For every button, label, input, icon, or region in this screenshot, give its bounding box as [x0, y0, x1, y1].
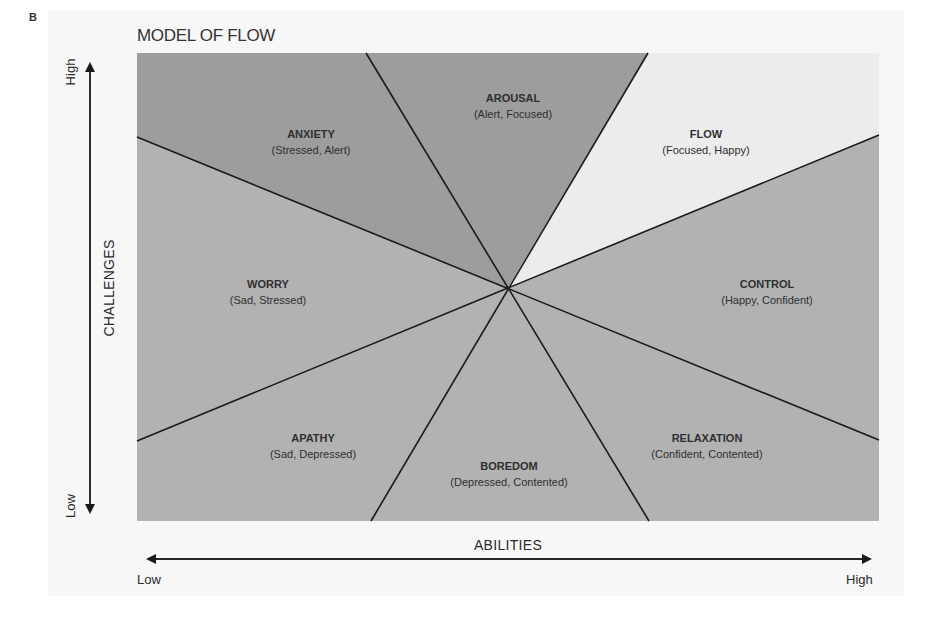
region-feelings: (Happy, Confident)	[721, 292, 813, 308]
region-name: AROUSAL	[474, 90, 552, 106]
region-apathy: APATHY (Sad, Depressed)	[270, 430, 356, 462]
y-axis-high-label: High	[63, 59, 78, 86]
y-axis-title: CHALLENGES	[101, 239, 117, 336]
x-axis-title: ABILITIES	[474, 537, 542, 553]
region-control: CONTROL (Happy, Confident)	[721, 276, 813, 308]
region-feelings: (Alert, Focused)	[474, 106, 552, 122]
region-worry: WORRY (Sad, Stressed)	[230, 276, 306, 308]
region-relaxation: RELAXATION (Confident, Contented)	[651, 430, 762, 462]
region-feelings: (Stressed, Alert)	[272, 142, 351, 158]
x-axis-low-label: Low	[137, 572, 161, 587]
x-axis-high-label: High	[846, 572, 873, 587]
region-feelings: (Sad, Depressed)	[270, 446, 356, 462]
flow-model-diagram	[0, 0, 942, 627]
region-name: FLOW	[662, 126, 749, 142]
region-anxiety: ANXIETY (Stressed, Alert)	[272, 126, 351, 158]
region-name: BOREDOM	[450, 458, 567, 474]
region-arousal: AROUSAL (Alert, Focused)	[474, 90, 552, 122]
region-feelings: (Depressed, Contented)	[450, 474, 567, 490]
region-flow: FLOW (Focused, Happy)	[662, 126, 749, 158]
region-name: WORRY	[230, 276, 306, 292]
region-feelings: (Confident, Contented)	[651, 446, 762, 462]
region-feelings: (Focused, Happy)	[662, 142, 749, 158]
region-boredom: BOREDOM (Depressed, Contented)	[450, 458, 567, 490]
region-name: ANXIETY	[272, 126, 351, 142]
region-name: APATHY	[270, 430, 356, 446]
region-name: CONTROL	[721, 276, 813, 292]
y-axis-low-label: Low	[63, 494, 78, 518]
region-name: RELAXATION	[651, 430, 762, 446]
region-feelings: (Sad, Stressed)	[230, 292, 306, 308]
